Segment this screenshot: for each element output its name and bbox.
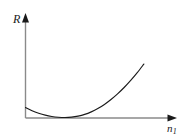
plot-canvas (0, 0, 191, 139)
x-axis-arrowhead (168, 115, 178, 122)
x-axis-label: n1 (167, 123, 177, 136)
y-axis-label: R (13, 13, 20, 25)
x-axis-label-subscript: 1 (173, 127, 177, 136)
figure-container: R n1 (0, 0, 191, 139)
y-axis-arrowhead (22, 13, 29, 23)
data-curve-r-vs-n1 (26, 64, 144, 117)
x-axis-label-symbol: n (167, 122, 173, 134)
